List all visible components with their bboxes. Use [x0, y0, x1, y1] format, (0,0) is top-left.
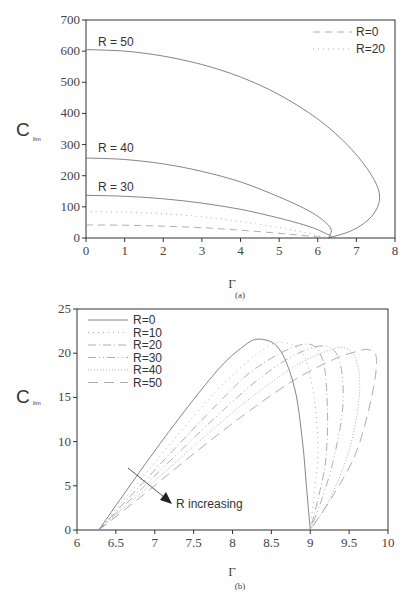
- chart-b: 0510152025 66.577.588.599.510 C lim Γ (b…: [16, 301, 395, 591]
- y-tick-label: 500: [61, 74, 81, 89]
- x-tick-label: 6: [315, 243, 322, 258]
- y-tick-label: 5: [65, 478, 72, 493]
- x-tick-label: 6: [74, 535, 81, 550]
- x-axis-ticks-a: 012345678: [83, 238, 399, 258]
- y-tick-label: 600: [61, 43, 81, 58]
- y-axis-label-a: C: [16, 119, 30, 140]
- y-tick-label: 700: [61, 12, 81, 27]
- y-axis-label-sub-a: lim: [33, 136, 41, 142]
- y-tick-label: 10: [58, 434, 71, 449]
- y-axis-ticks-b: 0510152025: [58, 301, 77, 537]
- x-tick-label: 1: [121, 243, 128, 258]
- x-tick-label: 8: [229, 535, 236, 550]
- y-axis-ticks-a: 0100200300400500600700: [61, 12, 87, 245]
- x-tick-label: 9: [307, 535, 314, 550]
- y-tick-label: 20: [58, 345, 71, 360]
- annotation-r-increasing: R increasing: [176, 497, 243, 511]
- x-tick-label: 8: [392, 243, 399, 258]
- legend-label: R=50: [133, 376, 162, 390]
- x-tick-label: 2: [160, 243, 167, 258]
- figure: 0100200300400500600700 012345678 C lim Γ…: [0, 0, 411, 602]
- x-tick-label: 8.5: [263, 535, 279, 550]
- y-tick-label: 400: [61, 105, 81, 120]
- x-axis-label-b: Γ: [228, 564, 236, 579]
- x-tick-label: 7.5: [186, 535, 202, 550]
- x-tick-label: 5: [276, 243, 283, 258]
- x-tick-label: 9.5: [341, 535, 357, 550]
- caption-a: (a): [235, 290, 245, 300]
- x-axis-ticks-b: 66.577.588.599.510: [74, 530, 395, 550]
- chart-a: 0100200300400500600700 012345678 C lim Γ…: [16, 12, 398, 300]
- x-tick-label: 6.5: [108, 535, 124, 550]
- y-tick-label: 100: [61, 199, 81, 214]
- plot-frame-a: [86, 20, 395, 238]
- y-tick-label: 25: [58, 301, 71, 316]
- y-tick-label: 300: [61, 137, 81, 152]
- arrow-head-icon: [160, 492, 172, 504]
- x-tick-label: 7: [152, 535, 159, 550]
- legend-a-r20: R=20: [356, 42, 385, 56]
- y-tick-label: 0: [74, 230, 81, 245]
- legend-b: R=0R=10R=20R=30R=40R=50: [88, 313, 162, 390]
- y-tick-label: 15: [58, 389, 71, 404]
- y-axis-label-sub-b: lim: [33, 400, 41, 406]
- annotation-arrow: [128, 468, 172, 504]
- annotation-r40: R = 40: [98, 141, 134, 155]
- series-line-R30: [86, 195, 331, 238]
- x-tick-label: 7: [353, 243, 360, 258]
- y-axis-label-b: C: [16, 386, 30, 407]
- annotation-r50: R = 50: [98, 35, 134, 49]
- x-tick-label: 3: [199, 243, 206, 258]
- series-line-R20: [86, 212, 329, 239]
- series-line-R0: [86, 225, 329, 238]
- x-tick-label: 10: [382, 535, 395, 550]
- x-axis-label-a: Γ: [228, 276, 236, 291]
- annotation-r30: R = 30: [98, 180, 134, 194]
- x-tick-label: 0: [83, 243, 90, 258]
- legend-a-r0: R=0: [356, 25, 379, 39]
- y-tick-label: 0: [65, 522, 72, 537]
- y-tick-label: 200: [61, 168, 81, 183]
- x-tick-label: 4: [237, 243, 244, 258]
- legend-a: R=0 R=20: [313, 25, 385, 56]
- caption-b: (b): [235, 581, 246, 591]
- series-line-R40: [86, 158, 331, 238]
